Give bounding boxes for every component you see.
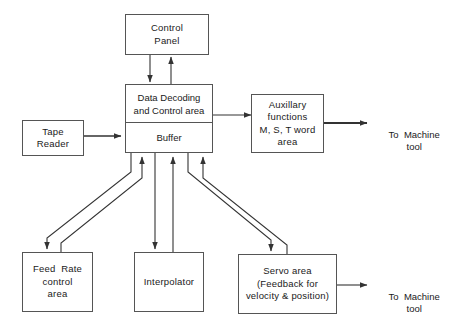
to-machine-tool-bottom-line-1: To Machine xyxy=(389,291,440,302)
data-decoding-line-1: Data Decoding xyxy=(138,91,201,104)
servo-line-1: Servo area xyxy=(263,265,311,278)
node-interpolator[interactable]: Interpolator xyxy=(134,252,204,312)
auxiliary-line-3: M, S, T word xyxy=(260,124,316,137)
feed-rate-line-3: area xyxy=(48,288,68,301)
node-tape-reader[interactable]: Tape Reader xyxy=(22,120,84,156)
auxiliary-line-2: functions xyxy=(268,111,308,124)
servo-line-3: velocity & position) xyxy=(246,290,329,303)
data-decoding-line-2: and Control area xyxy=(134,104,205,117)
interpolator-label: Interpolator xyxy=(144,276,194,289)
node-feed-rate-control-area[interactable]: Feed Rate control area xyxy=(22,252,93,312)
tape-reader-line-2: Reader xyxy=(37,138,69,151)
control-panel-line-2: Panel xyxy=(154,35,179,48)
connector-buffer-to-servo xyxy=(188,153,271,251)
block-diagram: Control Panel Data Decoding and Control … xyxy=(0,0,451,330)
node-servo-area[interactable]: Servo area (Feedback for velocity & posi… xyxy=(238,254,337,314)
node-buffer[interactable]: Buffer xyxy=(126,123,212,152)
connector-buffer-to-feedrate xyxy=(47,153,131,249)
node-data-decoding-and-buffer[interactable]: Data Decoding and Control area Buffer xyxy=(125,84,213,153)
buffer-label: Buffer xyxy=(156,132,181,143)
node-data-decoding[interactable]: Data Decoding and Control area xyxy=(126,85,212,123)
servo-line-2: (Feedback for xyxy=(257,278,318,291)
tape-reader-line-1: Tape xyxy=(42,126,63,139)
feed-rate-line-1: Feed Rate xyxy=(33,263,82,276)
feed-rate-line-2: control xyxy=(43,276,73,289)
label-to-machine-tool-bottom: To Machine tool xyxy=(370,278,448,328)
to-machine-tool-top-line-2: tool xyxy=(407,141,422,152)
to-machine-tool-top-line-1: To Machine xyxy=(389,129,440,140)
connector-feedrate-to-buffer xyxy=(61,157,142,253)
to-machine-tool-bottom-line-2: tool xyxy=(407,303,422,314)
connector-servo-to-buffer xyxy=(203,157,287,255)
node-control-panel[interactable]: Control Panel xyxy=(125,14,209,55)
auxiliary-line-4: area xyxy=(278,136,298,149)
auxiliary-line-1: Auxillary xyxy=(269,99,307,112)
node-auxiliary-functions[interactable]: Auxillary functions M, S, T word area xyxy=(251,94,324,153)
label-to-machine-tool-top: To Machine tool xyxy=(370,116,448,166)
control-panel-line-1: Control xyxy=(151,22,183,35)
